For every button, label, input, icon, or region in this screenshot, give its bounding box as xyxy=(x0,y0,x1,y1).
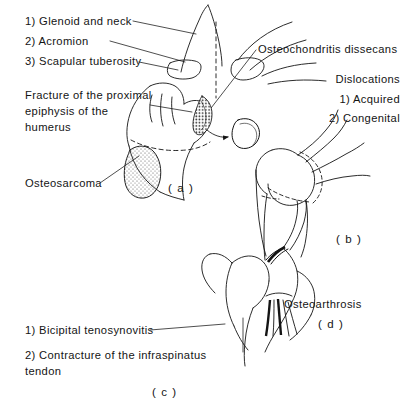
label-fracture-proximal-epiphysis: Fracture of the proximal epiphysis of th… xyxy=(25,88,155,136)
panel-c-drawing xyxy=(202,200,315,366)
anatomical-figure: 1) Glenoid and neck 2) Acromion 3) Scapu… xyxy=(0,0,413,417)
label-contracture-infraspinatus-tendon: 2) Contracture of the infraspinatus tend… xyxy=(25,348,245,380)
label-glenoid-and-neck: 1) Glenoid and neck xyxy=(25,16,132,28)
label-osteoarthrosis: Osteoarthrosis xyxy=(284,299,362,311)
label-scapular-tuberosity: 3) Scapular tuberosity xyxy=(25,56,142,68)
label-osteosarcoma: Osteosarcoma xyxy=(25,178,102,190)
label-osteochondritis-dissecans: Osteochondritis dissecans xyxy=(258,44,397,56)
panel-letter-a: ( a ) xyxy=(168,182,194,194)
label-bicipital-tenosynovitis: 1) Bicipital tenosynovitis xyxy=(25,325,154,337)
label-acromion: 2) Acromion xyxy=(25,36,89,48)
label-dislocations: Dislocations xyxy=(290,74,400,86)
label-dislocation-congenital: 2) Congenital xyxy=(290,113,400,125)
panel-letter-d: ( d ) xyxy=(318,318,344,330)
label-dislocation-acquired: 1) Acquired xyxy=(290,94,400,106)
leader-lines-panel-c xyxy=(150,318,243,352)
panel-letter-b: ( b ) xyxy=(336,233,362,245)
leader-line-osteochondritis xyxy=(208,50,256,112)
panel-letter-c: ( c ) xyxy=(152,386,177,398)
